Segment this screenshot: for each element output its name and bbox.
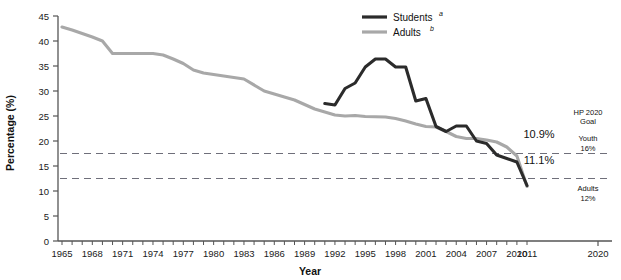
x-tick-label: 1974 — [142, 248, 163, 259]
series-line-adults — [62, 27, 527, 187]
y-tick-label: 45 — [38, 11, 49, 22]
x-tick-label: 2007 — [476, 248, 497, 259]
x-tick-label: 1986 — [264, 248, 285, 259]
y-tick-label: 10 — [38, 186, 49, 197]
series-line-students — [325, 59, 527, 186]
x-axis-ticks: 1965196819711974197719801983198619891992… — [51, 241, 608, 259]
x-tick-label: 2011 — [517, 248, 537, 259]
y-tick-label: 5 — [44, 211, 49, 222]
goal-youth-label: Youth — [579, 134, 598, 143]
hp2020-goal-title-line1: HP 2020 — [573, 108, 602, 117]
y-tick-label: 25 — [38, 111, 49, 122]
x-tick-label: 2001 — [415, 248, 436, 259]
x-tick-label: 1995 — [355, 248, 376, 259]
legend-footnote-students: a — [439, 10, 443, 17]
y-axis-ticks: 051015202530354045 — [38, 11, 58, 247]
y-tick-label: 0 — [44, 236, 49, 247]
line-chart: Percentage (%) Year 051015202530354045 1… — [0, 0, 621, 280]
end-label-adults: 10.9% — [523, 128, 554, 140]
x-tick-label: 1977 — [173, 248, 194, 259]
y-tick-label: 20 — [38, 136, 49, 147]
x-tick-label: 1998 — [385, 248, 406, 259]
y-axis-title: Percentage (%) — [4, 95, 16, 171]
goal-adults-label: Adults — [578, 184, 599, 193]
x-tick-label: 2004 — [446, 248, 467, 259]
end-label-students: 11.1% — [524, 154, 555, 166]
legend-label-students: Students — [393, 12, 432, 23]
x-axis-title: Year — [299, 265, 321, 277]
chart-container: Percentage (%) Year 051015202530354045 1… — [0, 0, 621, 280]
y-tick-label: 15 — [38, 161, 49, 172]
x-tick-label: 1989 — [294, 248, 315, 259]
legend-label-adults: Adults — [393, 27, 421, 38]
x-tick-label: 1965 — [51, 248, 72, 259]
x-tick-label: 1980 — [203, 248, 224, 259]
y-tick-label: 35 — [38, 61, 49, 72]
goal-youth-value: 16% — [580, 144, 595, 153]
x-tick-label: 1971 — [112, 248, 133, 259]
x-tick-label: 1983 — [233, 248, 254, 259]
legend: Students a Adults b — [362, 10, 443, 38]
y-tick-label: 30 — [38, 86, 49, 97]
y-tick-label: 40 — [38, 36, 49, 47]
x-tick-label: 1968 — [82, 248, 103, 259]
x-tick-label: 2020 — [587, 248, 608, 259]
hp2020-goal-title-line2: Goal — [580, 117, 596, 126]
x-tick-label: 1992 — [324, 248, 345, 259]
legend-footnote-adults: b — [430, 25, 434, 32]
goal-adults-value: 12% — [580, 194, 595, 203]
